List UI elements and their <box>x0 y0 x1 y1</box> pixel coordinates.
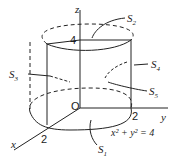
s5-leader <box>108 82 147 91</box>
y-label: y <box>160 111 166 123</box>
s5-label: S5 <box>149 85 159 100</box>
equation: x² + y² = 4 <box>110 127 154 138</box>
s4-leader <box>134 64 148 65</box>
s1-leader <box>90 120 97 145</box>
s2-leader <box>92 18 125 38</box>
s1-label: S1 <box>98 143 107 158</box>
y-tick-2: 2 <box>132 110 138 122</box>
s2-label: S2 <box>127 12 137 27</box>
top-ellipse-front <box>47 40 131 50</box>
s4-label: S4 <box>151 58 161 73</box>
z-tick-4: 4 <box>70 34 76 46</box>
s3-label: S3 <box>9 68 19 83</box>
x-label: x <box>10 138 16 150</box>
x-tick-2: 2 <box>41 133 47 145</box>
top-ellipse-back <box>42 24 133 44</box>
cylinder-diagram: z 4 O x 2 2 y x² + y² = 4 S2 S3 S4 S5 S1 <box>0 0 177 160</box>
s4-inside <box>105 62 127 78</box>
origin-label: O <box>71 100 80 112</box>
z-label: z <box>74 3 80 15</box>
